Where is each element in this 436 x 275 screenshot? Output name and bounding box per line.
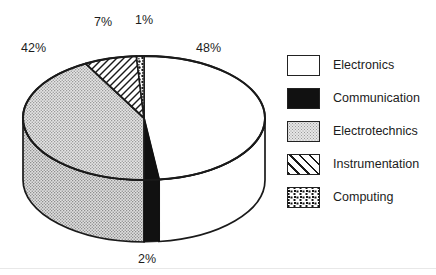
side-wall-communication — [144, 180, 159, 242]
bottom-divider — [0, 268, 436, 269]
data-label-electrotechnics: 42% — [21, 41, 46, 55]
chart-legend: Electronics Communication Electrotechnic… — [287, 54, 435, 219]
legend-swatch-electronics — [287, 55, 320, 76]
legend-label-electronics: Electronics — [333, 59, 394, 72]
data-label-communication: 2% — [138, 252, 156, 266]
legend-swatch-computing — [287, 187, 320, 208]
legend-swatch-communication — [287, 88, 320, 109]
legend-item-electrotechnics[interactable]: Electrotechnics — [287, 120, 435, 142]
legend-swatch-electrotechnics — [287, 121, 320, 142]
data-label-electronics: 48% — [196, 41, 221, 55]
legend-item-communication[interactable]: Communication — [287, 87, 435, 109]
legend-swatch-instrumentation — [287, 154, 320, 175]
legend-label-instrumentation: Instrumentation — [333, 158, 419, 171]
legend-label-communication: Communication — [333, 92, 420, 105]
legend-label-computing: Computing — [333, 191, 393, 204]
legend-item-computing[interactable]: Computing — [287, 186, 435, 208]
legend-item-electronics[interactable]: Electronics — [287, 54, 435, 76]
data-label-computing: 1% — [135, 13, 153, 27]
pie-chart-figure: 48% 2% 42% 7% 1% Electronics Communicati… — [0, 0, 436, 275]
legend-item-instrumentation[interactable]: Instrumentation — [287, 153, 435, 175]
pie-top-face — [23, 56, 265, 180]
data-label-instrumentation: 7% — [94, 15, 112, 29]
legend-label-electrotechnics: Electrotechnics — [333, 125, 418, 138]
